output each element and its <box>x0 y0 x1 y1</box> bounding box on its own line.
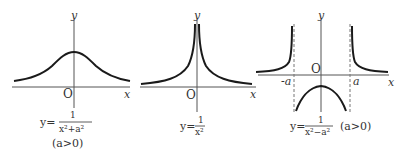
x-axis-label: x <box>388 76 395 89</box>
x-axis-label: x <box>250 88 257 101</box>
equation-lhs: y= <box>289 120 305 133</box>
curve-left <box>141 24 195 84</box>
equation-denominator: x²−a² <box>305 127 331 137</box>
origin-label: O <box>186 88 196 102</box>
equation-numerator: 1 <box>70 110 76 120</box>
condition: (a>0) <box>52 137 83 150</box>
y-axis-label: y <box>317 9 325 22</box>
curve-left-branch <box>256 26 292 72</box>
equation-lhs: y= <box>39 116 55 129</box>
equation-lhs: y= <box>179 120 195 133</box>
y-axis-label: y <box>70 9 78 22</box>
function-graphs: y x O y= 1 x²+a² (a>0) y x O y= 1 x² y x… <box>0 0 404 156</box>
graph-witch: y x O y= 1 x²+a² (a>0) <box>12 9 131 150</box>
y-axis-label: y <box>193 9 201 22</box>
equation-numerator: 1 <box>318 115 324 125</box>
pos-a-label: a <box>353 75 360 88</box>
x-axis-label: x <box>124 88 131 101</box>
neg-a-label: -a <box>281 75 291 88</box>
curve-right <box>199 24 252 84</box>
origin-label: O <box>63 87 73 101</box>
curve <box>14 52 130 81</box>
condition: (a>0) <box>340 120 371 133</box>
equation-denominator: x² <box>195 127 204 137</box>
graph-inverse-diff-squares: y x O -a a y= 1 x²−a² (a>0) <box>256 9 395 137</box>
curve-right-branch <box>352 26 388 72</box>
graph-inverse-square: y x O y= 1 x² <box>140 9 257 137</box>
origin-label: O <box>311 62 321 76</box>
equation-denominator: x²+a² <box>59 124 85 134</box>
equation-numerator: 1 <box>198 115 204 125</box>
